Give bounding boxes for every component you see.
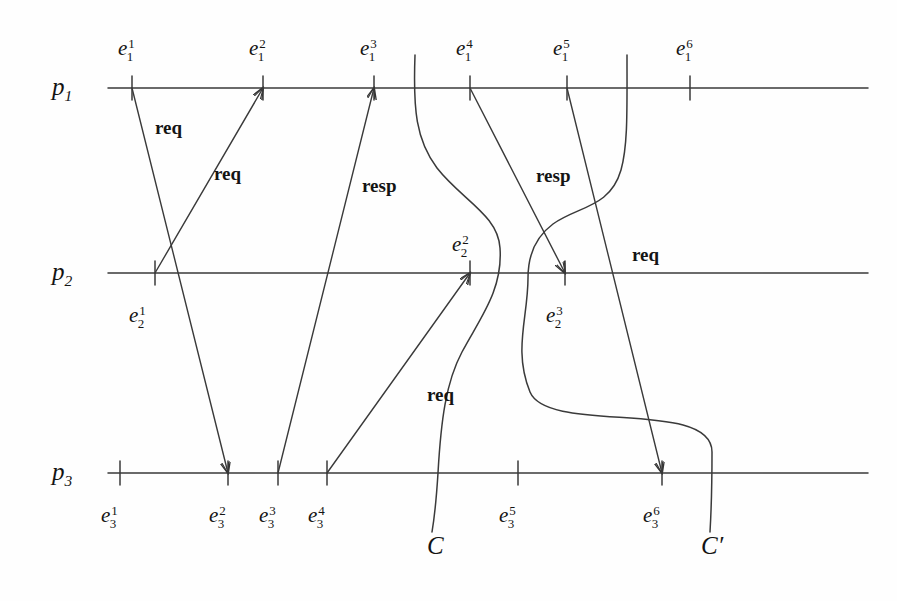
event-label-subscript: 2	[461, 245, 468, 260]
event-label-subscript: 3	[268, 516, 275, 531]
event-label-base: e	[546, 303, 555, 327]
event-label-subscript: 2	[555, 316, 562, 331]
event-label-base: e	[553, 36, 562, 60]
event-ticks-group	[120, 76, 690, 485]
event-label-base: e	[308, 503, 317, 527]
event-label-base: e	[259, 503, 268, 527]
event-label-base: e	[456, 36, 465, 60]
event-label-e_2_3: e32	[546, 303, 568, 329]
process-label-base: p	[52, 458, 65, 485]
event-label-base: e	[452, 232, 461, 256]
message-label-m2: req	[214, 164, 241, 183]
event-label-base: e	[101, 503, 110, 527]
event-label-e_2_1: e12	[129, 303, 151, 329]
event-label-e_3_2: e23	[209, 503, 231, 529]
event-label-base: e	[643, 503, 652, 527]
process-lines-group	[108, 88, 868, 473]
message-label-m3: resp	[362, 176, 396, 195]
space-time-diagram: p1p2p3CC′reqreqrespreqrespreqe11e21e31e4…	[0, 0, 897, 601]
event-label-subscript: 2	[138, 316, 145, 331]
event-label-e_1_4: e41	[456, 36, 478, 62]
event-label-base: e	[249, 36, 258, 60]
message-label-m5: resp	[536, 166, 570, 185]
message-arrow-m4	[327, 273, 470, 473]
event-label-subscript: 1	[562, 49, 569, 64]
event-label-subscript: 1	[465, 49, 472, 64]
cut-label-C: C	[427, 533, 444, 558]
event-label-e_1_3: e31	[360, 36, 382, 62]
event-label-e_3_3: e33	[259, 503, 281, 529]
event-label-e_1_6: e61	[676, 36, 698, 62]
cut-curve-C	[414, 55, 500, 532]
message-label-m6: req	[632, 245, 659, 264]
cut-curve-Cprime	[522, 55, 712, 532]
message-arrow-m3	[278, 88, 374, 473]
event-label-subscript: 1	[685, 49, 692, 64]
event-label-subscript: 3	[218, 516, 225, 531]
event-label-subscript: 3	[110, 516, 117, 531]
message-arrow-m1	[132, 88, 228, 473]
event-label-subscript: 3	[317, 516, 324, 531]
event-label-base: e	[129, 303, 138, 327]
event-label-e_2_2: e22	[452, 232, 474, 258]
message-arrow-m6	[567, 88, 662, 473]
event-label-e_1_5: e51	[553, 36, 575, 62]
process-label-index: 2	[65, 272, 73, 289]
event-label-base: e	[209, 503, 218, 527]
event-label-e_3_4: e43	[308, 503, 330, 529]
event-label-subscript: 3	[652, 516, 659, 531]
message-label-m4: req	[427, 385, 454, 404]
process-label-base: p	[52, 258, 65, 285]
event-label-subscript: 1	[258, 49, 265, 64]
event-label-e_1_1: e11	[118, 36, 140, 62]
event-label-e_3_6: e63	[643, 503, 665, 529]
cut-curves-group	[414, 55, 712, 532]
event-label-subscript: 3	[508, 516, 515, 531]
process-label-index: 1	[65, 87, 73, 104]
message-arrow-m2	[155, 88, 263, 273]
diagram-canvas	[0, 0, 897, 601]
process-label-index: 3	[65, 472, 73, 489]
event-label-e_3_1: e13	[101, 503, 123, 529]
event-label-subscript: 1	[369, 49, 376, 64]
event-label-subscript: 1	[127, 49, 134, 64]
message-label-m1: req	[155, 118, 182, 137]
event-label-base: e	[360, 36, 369, 60]
event-label-base: e	[499, 503, 508, 527]
message-arrows-group	[132, 88, 662, 473]
event-label-e_1_2: e21	[249, 36, 271, 62]
cut-label-Cprime: C′	[701, 533, 723, 558]
event-label-e_3_5: e53	[499, 503, 521, 529]
event-label-base: e	[676, 36, 685, 60]
process-label-p2: p2	[52, 259, 72, 289]
event-label-base: e	[118, 36, 127, 60]
process-label-p3: p3	[52, 459, 72, 489]
process-label-p1: p1	[52, 74, 72, 104]
process-label-base: p	[52, 73, 65, 100]
